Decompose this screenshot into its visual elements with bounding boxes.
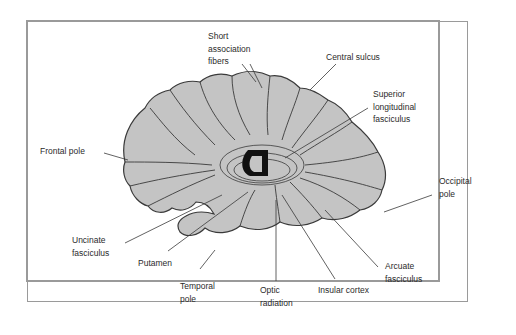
label-uncinate-fasciculus: Uncinate fasciculus [72,234,109,259]
label-temporal-pole: Temporal pole [180,280,215,305]
label-optic-radiation: Optic radiation [260,284,293,309]
label-superior-longitudinal-fasciculus: Superior longitudinal fasciculus [373,88,416,126]
label-frontal-pole: Frontal pole [40,145,85,158]
diagram-canvas [0,0,516,335]
label-short-association-fibers: Short association fibers [208,30,251,68]
label-arcuate-fasciculus: Arcuate fasciculus [385,260,422,285]
label-insular-cortex: Insular cortex [318,284,369,297]
label-putamen: Putamen [138,257,172,270]
label-central-sulcus: Central sulcus [326,51,380,64]
label-occipital-pole: Occipital pole [439,175,472,200]
